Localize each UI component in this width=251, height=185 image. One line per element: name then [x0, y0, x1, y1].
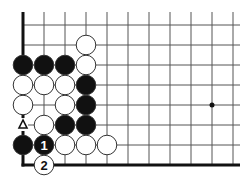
go-board-diagram: 12 [0, 0, 251, 185]
black-stone [76, 95, 96, 115]
white-stone [97, 135, 117, 155]
markers-layer [18, 118, 28, 131]
black-stone [55, 55, 75, 75]
star-point-icon [210, 103, 215, 108]
white-stone [13, 95, 33, 115]
black-stone [55, 115, 75, 135]
black-stone [13, 55, 33, 75]
white-stone [13, 75, 33, 95]
move-number-label: 2 [40, 158, 47, 173]
white-stone [34, 115, 54, 135]
white-stone [55, 75, 75, 95]
move-number-label: 1 [40, 138, 47, 153]
board-edges [22, 12, 241, 167]
black-stone [76, 115, 96, 135]
white-stone [76, 35, 96, 55]
star-points [210, 103, 215, 108]
white-stone [55, 95, 75, 115]
black-stone [76, 75, 96, 95]
white-stone [76, 135, 96, 155]
white-stone [76, 55, 96, 75]
black-stone [34, 55, 54, 75]
white-stone [34, 75, 54, 95]
black-stone [13, 135, 33, 155]
white-stone [55, 135, 75, 155]
